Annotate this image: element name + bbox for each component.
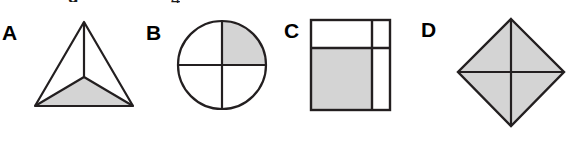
shape-d-diamond — [458, 19, 564, 126]
figures-canvas — [0, 0, 572, 150]
shape-a-triangle — [35, 22, 133, 106]
shape-c-region-lower-left-shaded — [311, 48, 372, 110]
shape-c-square — [311, 20, 390, 110]
shape-b-circle — [178, 21, 266, 109]
